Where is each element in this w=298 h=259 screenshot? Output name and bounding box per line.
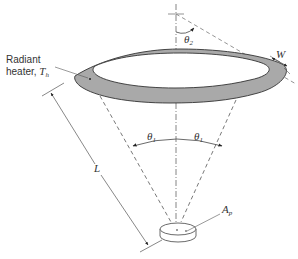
heater-label-line1: Radiant (6, 54, 41, 65)
width-label: W (276, 48, 286, 60)
length-dim-line-b (101, 175, 148, 245)
radiant-heater-diagram: Radiant heater, Th L W θ2 θ1 θ1 Ap (0, 0, 298, 259)
theta1-left-label: θ1 (147, 130, 156, 144)
area-leader (187, 214, 220, 231)
heater-label-line2: heater, Th (6, 65, 49, 79)
radiant-heater-ring (75, 49, 287, 103)
length-label: L (93, 162, 100, 174)
length-dim-line-a (51, 93, 95, 164)
cone-left-line (100, 96, 171, 222)
length-ext-bottom (140, 240, 162, 252)
target-disk (160, 223, 196, 242)
theta1-right-label: θ1 (194, 130, 203, 144)
area-label: Ap (221, 203, 233, 217)
theta2-label: θ2 (184, 33, 193, 47)
length-ext-top (42, 83, 64, 96)
